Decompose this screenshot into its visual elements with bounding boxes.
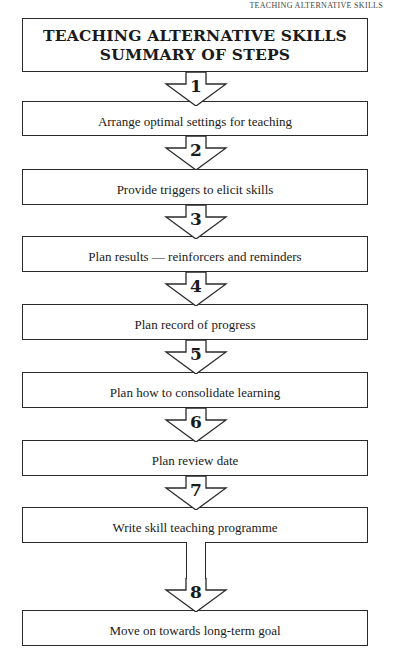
down-arrow-icon: 4 xyxy=(164,272,228,306)
step-box-7: Write skill teaching programme xyxy=(22,507,368,543)
step-number: 5 xyxy=(164,344,228,364)
step-label: Plan review date xyxy=(152,447,239,469)
down-arrow-icon: 8 xyxy=(164,578,228,612)
arrow-shaft xyxy=(186,542,206,579)
down-arrow-icon: 2 xyxy=(164,136,228,170)
down-arrow-icon: 6 xyxy=(164,408,228,442)
step-label: Write skill teaching programme xyxy=(112,514,277,536)
step-box-5: Plan how to consolidate learning xyxy=(22,372,368,408)
down-arrow-icon: 7 xyxy=(164,476,228,510)
title-line-1: TEACHING ALTERNATIVE SKILLS xyxy=(43,26,347,45)
step-box-8: Move on towards long-term goal xyxy=(22,610,368,646)
step-label: Plan results — reinforcers and reminders xyxy=(88,243,301,265)
step-box-1: Arrange optimal settings for teaching xyxy=(22,101,368,136)
step-number: 3 xyxy=(164,209,228,229)
step-box-2: Provide triggers to elicit skills xyxy=(22,169,368,205)
running-head: TEACHING ALTERNATIVE SKILLS xyxy=(249,1,383,10)
down-arrow-icon: 3 xyxy=(164,205,228,239)
step-number: 6 xyxy=(164,412,228,432)
step-box-6: Plan review date xyxy=(22,440,368,476)
title-box: TEACHING ALTERNATIVE SKILLS SUMMARY OF S… xyxy=(22,18,368,72)
step-box-3: Plan results — reinforcers and reminders xyxy=(22,236,368,272)
step-label: Provide triggers to elicit skills xyxy=(117,176,274,198)
step-label: Plan record of progress xyxy=(135,311,256,333)
step-label: Arrange optimal settings for teaching xyxy=(98,108,292,130)
step-number: 4 xyxy=(164,276,228,296)
step-number: 8 xyxy=(164,582,228,602)
step-label: Plan how to consolidate learning xyxy=(110,379,280,401)
step-number: 7 xyxy=(164,480,228,500)
step-number: 1 xyxy=(164,76,228,96)
step-number: 2 xyxy=(164,140,228,160)
step-label: Move on towards long-term goal xyxy=(109,617,280,639)
down-arrow-icon: 1 xyxy=(164,72,228,106)
down-arrow-icon: 5 xyxy=(164,340,228,374)
step-box-4: Plan record of progress xyxy=(22,304,368,340)
title-line-2: SUMMARY OF STEPS xyxy=(100,45,290,64)
